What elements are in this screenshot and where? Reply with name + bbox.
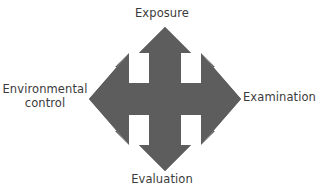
cutout-top-right (181, 53, 201, 83)
cutout-bottom-right (181, 115, 201, 145)
cutout-top-left (129, 53, 149, 83)
four-way-arrow-diagram: Exposure Examination Evaluation Environm… (0, 0, 324, 196)
arrow-cross-shape (89, 27, 241, 171)
arrow-cross-outline (89, 27, 241, 171)
label-exposure: Exposure (0, 6, 324, 20)
label-examination: Examination (243, 90, 324, 104)
label-environmental-control: Environmental control (2, 82, 88, 110)
cutout-bottom-left (129, 115, 149, 145)
label-evaluation: Evaluation (0, 172, 324, 186)
